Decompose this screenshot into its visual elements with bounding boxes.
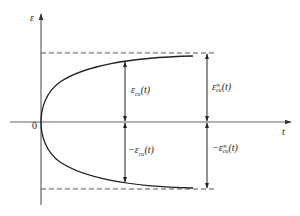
argument: (t) bbox=[144, 144, 153, 155]
argument: (t) bbox=[141, 84, 150, 95]
lower-inner-label: −εcu(t) bbox=[128, 145, 154, 157]
t-axis-label: t bbox=[282, 127, 285, 137]
y-axis-label: ε bbox=[30, 13, 34, 23]
argument: (t) bbox=[222, 81, 231, 92]
origin-label: 0 bbox=[32, 121, 37, 131]
strain-diagram bbox=[0, 0, 300, 216]
argument: (t) bbox=[228, 142, 237, 153]
prefix: − bbox=[212, 142, 219, 153]
prefix: − bbox=[128, 144, 135, 155]
upper-inner-label: εcu(t) bbox=[131, 85, 150, 97]
upper-outer-label: ε∞cu(t) bbox=[212, 82, 231, 93]
lower-outer-label: −ε∞cu(t) bbox=[212, 143, 238, 154]
